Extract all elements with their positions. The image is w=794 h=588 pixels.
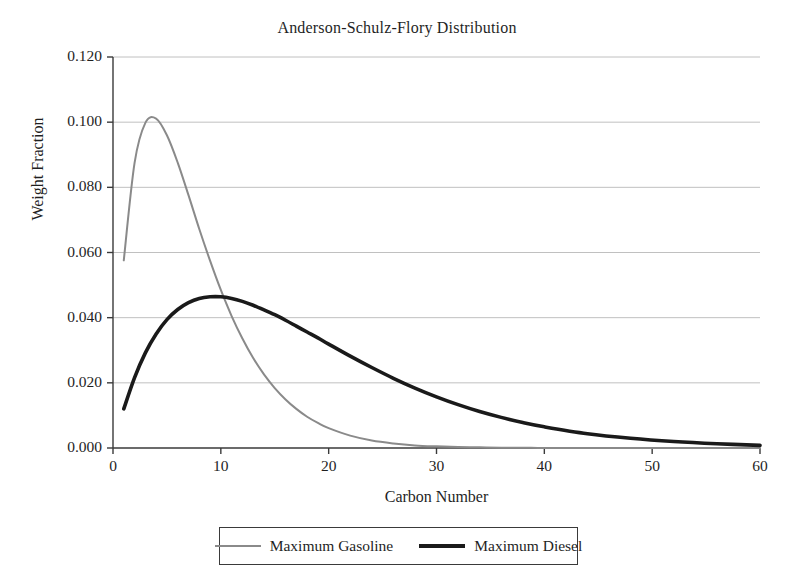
y-tick-label: 0.040 xyxy=(40,308,102,326)
y-tick-label: 0.020 xyxy=(40,373,102,391)
chart-legend: Maximum Gasoline Maximum Diesel xyxy=(219,527,578,565)
chart-figure: Anderson-Schulz-Flory Distribution Weigh… xyxy=(0,0,794,588)
legend-label-diesel: Maximum Diesel xyxy=(474,537,582,555)
x-tick-label: 40 xyxy=(514,457,574,475)
diesel-line-swatch xyxy=(419,544,465,548)
y-tick-label: 0.120 xyxy=(40,47,102,65)
y-tick-label: 0.060 xyxy=(40,243,102,261)
x-tick-label: 10 xyxy=(191,457,251,475)
x-tick-label: 20 xyxy=(299,457,359,475)
x-tick-label: 0 xyxy=(83,457,143,475)
y-tick-label: 0.000 xyxy=(40,438,102,456)
series-line-diesel xyxy=(124,297,760,446)
x-tick-label: 30 xyxy=(407,457,467,475)
x-tick-label: 60 xyxy=(730,457,790,475)
x-axis-title: Carbon Number xyxy=(113,488,760,506)
gasoline-line-swatch xyxy=(215,545,261,547)
legend-entry-gasoline: Maximum Gasoline xyxy=(215,537,394,555)
y-tick-label: 0.080 xyxy=(40,177,102,195)
x-tick-label: 50 xyxy=(622,457,682,475)
y-tick-label: 0.100 xyxy=(40,112,102,130)
legend-entry-diesel: Maximum Diesel xyxy=(419,537,582,555)
legend-label-gasoline: Maximum Gasoline xyxy=(270,537,394,555)
